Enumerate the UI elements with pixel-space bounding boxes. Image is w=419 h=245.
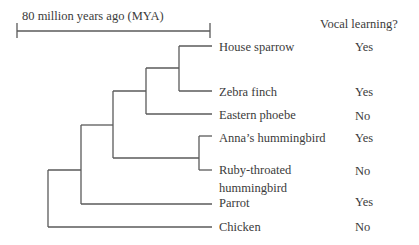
vocal-learning-value: No [355,109,370,123]
scale-bar [17,23,210,38]
vocal-learning-value: No [355,164,370,178]
vocal-learning-value: Yes [355,85,373,99]
species-label: Eastern phoebe [219,108,296,122]
vocal-learning-value: Yes [355,131,373,145]
scale-bar-label: 80 million years ago (MYA) [22,9,164,23]
species-label: Parrot [219,196,250,210]
species-label: House sparrow [219,40,294,54]
vocal-learning-value: Yes [355,195,373,209]
branch-parrot [48,125,212,204]
branch-hummingbirds [113,136,212,170]
species-label-line1: Ruby-throated [219,163,291,177]
branch-node-113 [81,91,113,158]
species-label: Anna’s hummingbird [219,131,326,145]
branch-chicken-root [48,170,212,227]
vocal-learning-value: No [355,220,370,234]
vocal-learning-header: Vocal learning? [320,17,398,31]
species-label: Chicken [219,220,261,234]
branch-sparrow-finch [146,46,212,91]
vocal-learning-value: Yes [355,40,373,54]
species-label-line2: hummingbird [219,181,287,195]
species-label: Zebra finch [219,85,277,99]
